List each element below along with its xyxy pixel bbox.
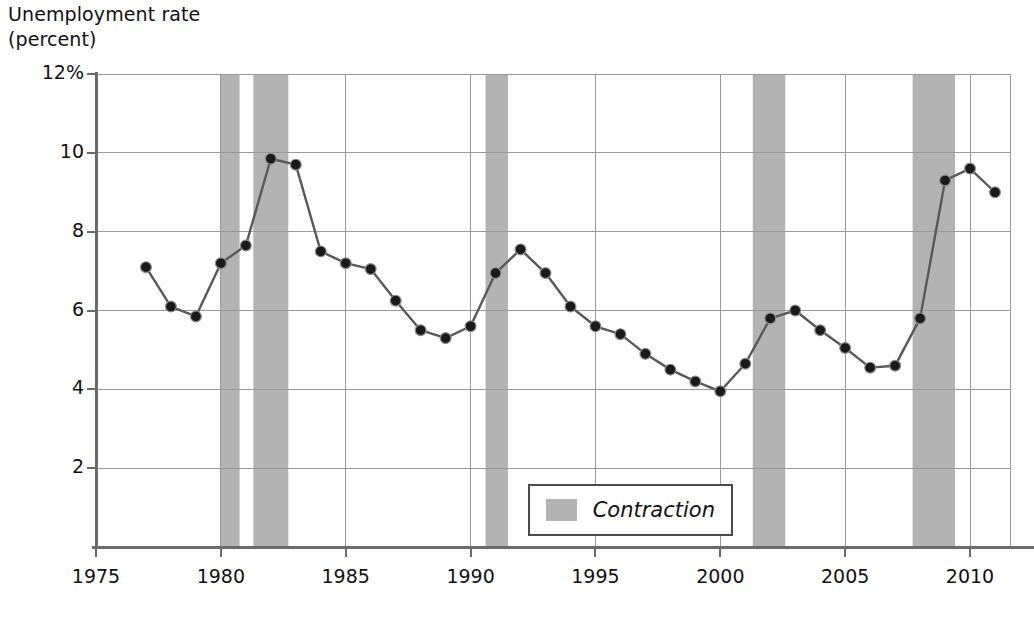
data-point bbox=[315, 246, 326, 257]
plot-canvas bbox=[0, 0, 1034, 628]
data-point bbox=[190, 311, 201, 322]
data-point bbox=[540, 268, 551, 279]
data-point bbox=[265, 153, 276, 164]
y-tick-label: 4 bbox=[14, 376, 84, 398]
data-point bbox=[166, 301, 177, 312]
x-tick-label: 1985 bbox=[306, 565, 386, 587]
data-point bbox=[465, 321, 476, 332]
data-point bbox=[290, 159, 301, 170]
contraction-band-swatch bbox=[546, 499, 577, 521]
y-tick-label: 2 bbox=[14, 455, 84, 477]
data-point bbox=[690, 376, 701, 387]
data-point bbox=[215, 258, 226, 269]
data-point bbox=[390, 295, 401, 306]
x-tick-label: 1990 bbox=[431, 565, 511, 587]
data-point bbox=[490, 268, 501, 279]
y-tick-label: 8 bbox=[14, 219, 84, 241]
data-point bbox=[940, 175, 951, 186]
x-tick-label: 2005 bbox=[805, 565, 885, 587]
data-point bbox=[340, 258, 351, 269]
data-point bbox=[640, 348, 651, 359]
data-point bbox=[965, 163, 976, 174]
data-point bbox=[415, 325, 426, 336]
data-point bbox=[141, 262, 152, 273]
x-tick-label: 1980 bbox=[181, 565, 261, 587]
data-point bbox=[440, 333, 451, 344]
data-point bbox=[715, 386, 726, 397]
y-tick-label: 10 bbox=[14, 140, 84, 162]
x-tick-label: 2000 bbox=[680, 565, 760, 587]
y-tick-label: 12% bbox=[14, 61, 84, 83]
data-point bbox=[515, 244, 526, 255]
data-point bbox=[240, 240, 251, 251]
data-point bbox=[990, 187, 1001, 198]
data-point bbox=[815, 325, 826, 336]
x-tick-label: 2010 bbox=[930, 565, 1010, 587]
data-point bbox=[915, 313, 926, 324]
y-tick-label: 6 bbox=[14, 298, 84, 320]
x-tick-label: 1975 bbox=[56, 565, 136, 587]
unemployment-rate-chart: Unemployment rate (percent) 12%108642 19… bbox=[0, 0, 1034, 628]
data-point bbox=[765, 313, 776, 324]
data-point bbox=[365, 264, 376, 275]
data-point bbox=[665, 364, 676, 375]
data-point bbox=[890, 360, 901, 371]
data-point bbox=[590, 321, 601, 332]
data-point bbox=[790, 305, 801, 316]
data-point bbox=[740, 358, 751, 369]
data-point bbox=[865, 362, 876, 373]
data-point bbox=[565, 301, 576, 312]
data-point bbox=[840, 343, 851, 354]
legend-label-contraction: Contraction bbox=[593, 498, 715, 522]
x-tick-label: 1995 bbox=[555, 565, 635, 587]
chart-legend: Contraction bbox=[528, 484, 733, 536]
data-point bbox=[615, 329, 626, 340]
